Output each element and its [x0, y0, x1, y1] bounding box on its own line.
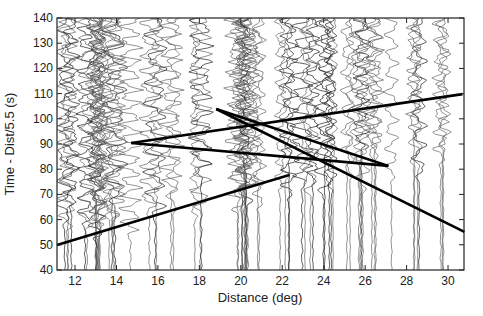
x-tick-label: 16: [151, 274, 165, 288]
x-tick-label: 22: [276, 274, 290, 288]
x-tick-label: 18: [193, 274, 207, 288]
y-tick-label: 140: [33, 11, 53, 25]
seismogram-trace: [353, 18, 371, 270]
seismogram-trace: [411, 18, 428, 270]
x-tick-label: 12: [68, 274, 82, 288]
y-tick-label: 80: [40, 162, 54, 176]
y-tick-label: 50: [40, 238, 54, 252]
y-tick-label: 110: [34, 87, 53, 101]
travel-time-line: [216, 109, 464, 232]
y-tick-label: 60: [40, 213, 54, 227]
seismogram-trace: [413, 18, 422, 270]
x-tick-label: 30: [441, 274, 455, 288]
seismogram-trace: [432, 18, 450, 270]
y-axis-title: Time - Dist/5.5 (s): [2, 93, 17, 196]
y-tick-label: 120: [33, 61, 53, 75]
y-tick-label: 100: [33, 112, 53, 126]
y-tick-label: 70: [40, 187, 54, 201]
x-tick-label: 20: [234, 274, 248, 288]
x-tick-label: 28: [400, 274, 414, 288]
x-tick-label: 24: [317, 274, 331, 288]
x-tick-label: 26: [358, 274, 372, 288]
y-tick-label: 40: [40, 263, 54, 277]
x-axis-title: Distance (deg): [218, 290, 303, 305]
seismogram-trace: [158, 18, 185, 270]
y-tick-label: 130: [33, 36, 53, 50]
y-tick-label: 90: [40, 137, 54, 151]
x-axis-ticks: 12141618202224262830: [68, 18, 455, 288]
seismogram-trace: [384, 18, 400, 270]
seismogram-trace: [190, 18, 200, 270]
seismogram-traces: [56, 18, 452, 270]
x-tick-label: 14: [110, 274, 124, 288]
seismic-record-section-chart: 12141618202224262830 4050607080901001101…: [0, 0, 483, 316]
